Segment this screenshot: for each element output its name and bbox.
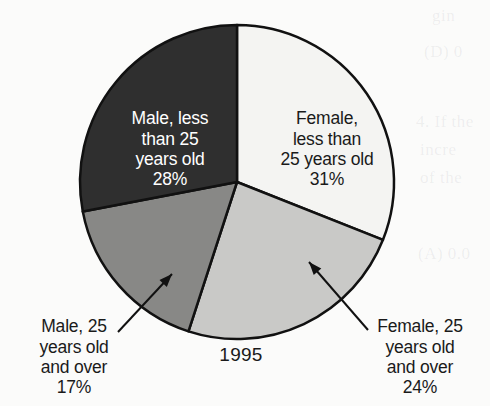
slice-label-female-25-and-over: Female, 25 years old and over 24% bbox=[356, 296, 484, 397]
slice-label-male-25-and-over-text: Male, 25 years old and over bbox=[39, 316, 108, 377]
slice-value-female-25-and-over: 24% bbox=[403, 377, 437, 397]
slice-label-male-25-and-over: Male, 25 years old and over 17% bbox=[12, 296, 136, 397]
slice-label-male-less-than-25-text: Male, less than 25 years old bbox=[132, 108, 209, 169]
chart-year-label: 1995 bbox=[186, 344, 296, 366]
slice-label-male-less-than-25: Male, less than 25 years old 28% bbox=[96, 88, 244, 210]
slice-value-female-less-than-25: 31% bbox=[252, 169, 402, 189]
pie-chart-figure: gin (D) 0 4. If the incre of the (A) 0.0… bbox=[0, 0, 490, 406]
slice-label-female-less-than-25: Female, less than 25 years old 31% bbox=[252, 88, 402, 210]
slice-label-female-less-than-25-text: Female, less than 25 years old bbox=[281, 108, 374, 169]
slice-value-male-25-and-over: 17% bbox=[57, 377, 91, 397]
slice-label-female-25-and-over-text: Female, 25 years old and over bbox=[377, 316, 463, 377]
slice-value-male-less-than-25: 28% bbox=[96, 169, 244, 189]
